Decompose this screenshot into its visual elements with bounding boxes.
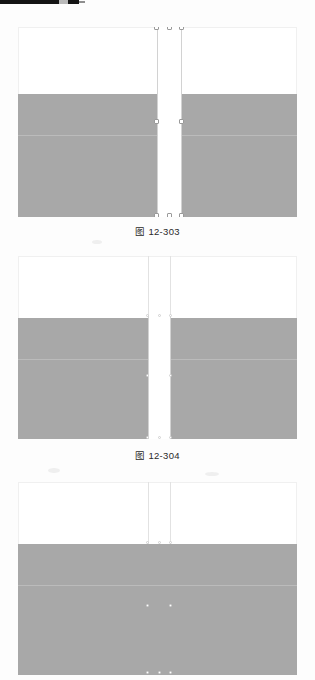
selection-handle-bottom-left[interactable] (146, 671, 149, 674)
selection-handle-bottom-center[interactable] (158, 436, 161, 439)
shaded-region-merged (18, 544, 297, 675)
shading-inner-rule (18, 135, 157, 136)
selection-handle-top-right[interactable] (169, 314, 172, 317)
shaded-region-right (171, 318, 297, 439)
selection-handle-bottom-right[interactable] (179, 213, 184, 217)
selection-handle-bottom-center[interactable] (158, 671, 161, 674)
shading-inner-rule (18, 585, 297, 586)
selection-handle-middle-left[interactable] (146, 374, 149, 377)
page-root: { "page": { "width": 315, "height": 680,… (0, 0, 315, 680)
selection-handle-top-center[interactable] (158, 541, 161, 544)
selection-handle-top-left[interactable] (146, 541, 149, 544)
figure-canvas-fig-305 (18, 482, 297, 675)
selection-handle-top-center[interactable] (167, 27, 172, 30)
shading-inner-rule (18, 359, 148, 360)
shaded-region-left (18, 94, 157, 217)
figure-block-fig-303: 图 12-303 (0, 0, 315, 245)
selection-guide-right (170, 256, 171, 318)
shaded-region-left (18, 318, 148, 439)
selection-border-right (170, 316, 171, 439)
selection-handle-middle-left[interactable] (154, 119, 159, 124)
figure-caption-fig-304: 图 12-304 (0, 448, 315, 462)
figure-block-fig-305 (0, 470, 315, 680)
selection-handle-middle-right[interactable] (169, 604, 172, 607)
selection-handle-middle-left[interactable] (146, 604, 149, 607)
figure-canvas-fig-303 (18, 27, 297, 217)
selection-handle-top-right[interactable] (169, 541, 172, 544)
selection-handle-middle-right[interactable] (169, 374, 172, 377)
selection-handle-bottom-right[interactable] (169, 671, 172, 674)
selection-guide-left (148, 482, 149, 544)
selection-handle-top-left[interactable] (154, 27, 159, 30)
shaded-region-right (182, 94, 297, 217)
selection-handle-bottom-left[interactable] (154, 213, 159, 217)
figure-canvas-fig-304 (18, 256, 297, 439)
figure-block-fig-304: 图 12-304 (0, 245, 315, 470)
selection-handle-top-left[interactable] (146, 314, 149, 317)
selection-column-fig-304[interactable] (148, 316, 171, 439)
selection-handle-bottom-left[interactable] (146, 436, 149, 439)
shading-inner-rule (171, 359, 297, 360)
selection-handle-bottom-center[interactable] (167, 213, 172, 217)
selection-guide-right (170, 482, 171, 544)
selection-handle-top-right[interactable] (179, 27, 184, 30)
selection-border-left (148, 316, 149, 439)
shading-inner-rule (182, 135, 297, 136)
figure-caption-fig-303: 图 12-303 (0, 224, 315, 238)
selection-handle-bottom-right[interactable] (169, 436, 172, 439)
selection-guide-left (148, 256, 149, 318)
selection-handle-middle-right[interactable] (179, 119, 184, 124)
selection-handle-top-center[interactable] (158, 314, 161, 317)
